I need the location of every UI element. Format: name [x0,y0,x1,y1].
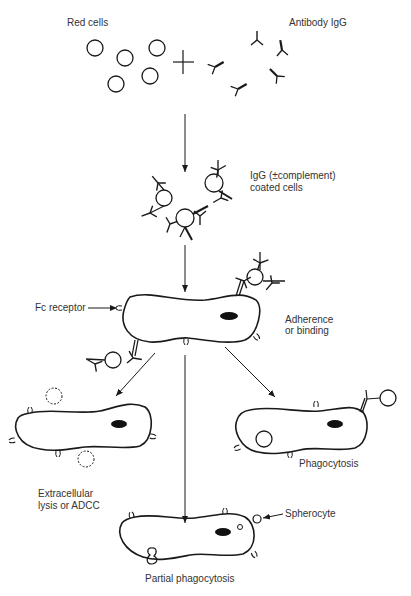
arrow-right [225,347,275,397]
arrow-left [116,353,155,396]
label-phagocytosis: Phagocytosis [299,458,358,469]
coated-cell [176,209,194,227]
red-cell [87,40,103,56]
red-cell [142,68,158,84]
label-extracellular-line2: lysis or ADCC [38,500,100,511]
spherocyte-pointer [263,514,283,518]
macrophage-partial [120,508,261,564]
macrophage-outline [120,514,254,560]
nucleus-icon [327,420,343,428]
nucleus-icon [215,528,231,536]
label-fc-receptor: Fc receptor [35,302,86,313]
antibody-icon [274,39,288,57]
red-cells-group [87,40,165,92]
antibody-icon [230,79,249,97]
lysed-cell-dashed [78,451,94,467]
macrophage-outline [123,295,260,342]
label-spherocyte: Spherocyte [285,508,336,519]
macrophage-phagocytosis [234,390,396,458]
label-coated-line2: coated cells [250,182,303,193]
coated-cell [156,190,172,206]
antibody-icon [207,57,226,75]
coated-cells-group [139,160,232,240]
nucleus-icon [111,420,127,428]
label-adherence-line2: or binding [285,325,329,336]
label-adherence-line1: Adherence [285,314,333,325]
spherocyte-icon [253,515,261,523]
red-cell [108,76,124,92]
macrophage-outline [16,404,152,450]
partial-cell [147,548,157,564]
red-cell [149,40,165,56]
coated-cell [205,174,223,192]
label-antibody-igg: Antibody IgG [289,17,347,28]
ingested-cell [256,431,272,447]
nucleus-icon [220,312,238,320]
macrophage-lysis [9,388,157,467]
free-antibodies [207,31,288,96]
red-cell [117,50,133,66]
antibody-icon [251,31,263,45]
antibody-icon [266,65,285,84]
label-extracellular-line1: Extracellular [38,488,93,499]
lysed-cell-dashed [46,388,62,404]
ingested-fragment [238,525,243,530]
label-coated-line1: IgG (±complement) [250,170,336,181]
label-red-cells: Red cells [67,17,108,28]
plus-icon [173,50,194,74]
label-partial-phagocytosis: Partial phagocytosis [145,573,235,584]
macrophage-outline [236,408,367,454]
